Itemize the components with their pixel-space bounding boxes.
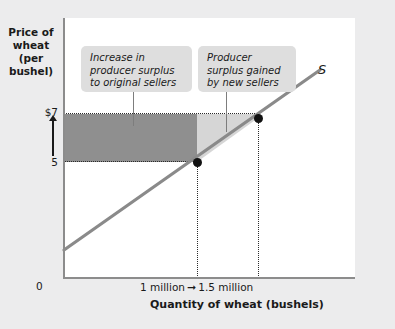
x-axis-line: [63, 277, 355, 279]
guide-line-price-7: [64, 113, 259, 114]
equilibrium-point-new: [254, 114, 263, 123]
price-increase-arrow-icon: [52, 120, 54, 156]
region-original-sellers-surplus: [65, 114, 197, 162]
y-axis-title: Price of wheat (per bushel): [0, 26, 62, 78]
supply-curve-figure: S Price of wheat (per bushel) $7 5 0 1 m…: [0, 0, 395, 329]
guide-line-price-5: [64, 161, 198, 162]
origin-label: 0: [36, 280, 43, 292]
callout-leader-new-sellers: [226, 92, 227, 132]
guide-line-quantity-1-5million: [258, 118, 259, 278]
region-new-sellers-surplus: [197, 114, 258, 162]
callout-original-sellers: Increase in producer surplus to original…: [81, 46, 192, 92]
x-axis-title: Quantity of wheat (bushels): [150, 298, 382, 311]
x-tick-labels: 1 million➞1.5 million: [140, 281, 253, 294]
equilibrium-point-initial: [193, 158, 202, 167]
x-tick-label-1million: 1 million: [140, 281, 185, 293]
callout-leader-original-sellers: [133, 92, 134, 126]
callout-new-sellers: Producer surplus gained by new sellers: [198, 46, 296, 92]
y-tick-label-5: 5: [32, 156, 58, 168]
x-tick-label-1-5million: 1.5 million: [198, 281, 253, 293]
guide-line-quantity-1million: [197, 162, 198, 278]
supply-curve-label: S: [318, 62, 326, 77]
y-axis-line: [63, 18, 65, 279]
quantity-increase-arrow-icon: ➞: [185, 281, 198, 294]
